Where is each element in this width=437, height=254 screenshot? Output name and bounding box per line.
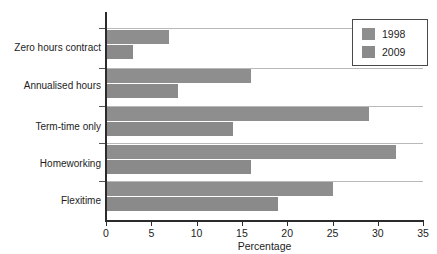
category-label-term-time-only: Term-time only (1, 121, 101, 132)
y-axis-line (105, 12, 107, 221)
legend-swatch-1998 (362, 28, 375, 40)
bar-2009-annualised-hours (106, 84, 178, 98)
legend: 1998 2009 (352, 19, 428, 66)
legend-entry-2009: 2009 (362, 46, 405, 58)
category-axis-labels: Zero hours contract Annualised hours Ter… (0, 0, 101, 254)
x-axis-tick-10 (197, 221, 198, 226)
x-axis-tick-30 (378, 221, 379, 226)
bar-1998-homeworking (106, 145, 396, 159)
category-label-flexitime: Flexitime (1, 195, 101, 206)
x-axis-tick-15 (242, 221, 243, 226)
bar-2009-homeworking (106, 160, 251, 174)
x-axis-tick-label-0: 0 (103, 227, 109, 239)
bar-2009-zero-hours-contract (106, 45, 133, 59)
category-label-zero-hours-contract: Zero hours contract (1, 42, 101, 53)
category-label-annualised-hours: Annualised hours (1, 80, 101, 91)
legend-label-2009: 2009 (382, 46, 405, 58)
bar-1998-annualised-hours (106, 69, 251, 83)
x-axis-tick-20 (287, 221, 288, 226)
bar-1998-zero-hours-contract (106, 30, 169, 44)
legend-swatch-2009 (362, 46, 375, 58)
bar-2009-flexitime (106, 197, 278, 211)
x-axis-tick-label-25: 25 (327, 227, 339, 239)
bar-chart: Zero hours contract Annualised hours Ter… (0, 0, 437, 254)
x-axis-tick-label-30: 30 (372, 227, 384, 239)
bar-2009-term-time-only (106, 122, 233, 136)
x-axis-tick-5 (151, 221, 152, 226)
bar-1998-flexitime (106, 182, 333, 196)
x-axis-tick-label-10: 10 (191, 227, 203, 239)
bar-1998-term-time-only (106, 107, 369, 121)
x-axis-tick-label-20: 20 (281, 227, 293, 239)
x-axis-tick-label-35: 35 (417, 227, 429, 239)
x-axis-line (105, 220, 424, 222)
x-axis-tick-label-15: 15 (236, 227, 248, 239)
x-axis-tick-0 (106, 221, 107, 226)
category-label-homeworking: Homeworking (1, 158, 101, 169)
x-axis-tick-label-5: 5 (148, 227, 154, 239)
legend-label-1998: 1998 (382, 28, 405, 40)
x-axis-title: Percentage (106, 240, 423, 252)
legend-entry-1998: 1998 (362, 28, 405, 40)
x-axis-tick-25 (333, 221, 334, 226)
x-axis-tick-35 (423, 221, 424, 226)
